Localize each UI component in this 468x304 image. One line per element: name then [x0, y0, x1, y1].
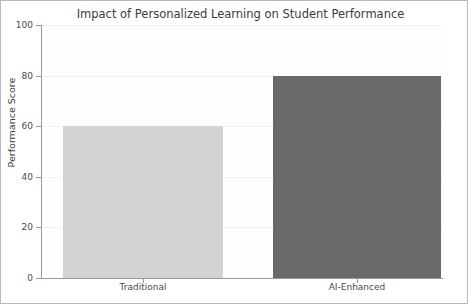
y-axis-spine: [41, 25, 42, 279]
chart-title: Impact of Personalized Learning on Stude…: [41, 5, 440, 23]
gridline-100: [41, 25, 442, 26]
xtick-label-traditional: Traditional: [83, 282, 203, 293]
bar-traditional: [63, 126, 223, 278]
ytick-label-0: 0: [3, 273, 33, 283]
y-axis-label: Performance Score: [6, 68, 17, 178]
chart-figure: Impact of Personalized Learning on Stude…: [0, 0, 468, 304]
ytick-mark-40: [36, 177, 41, 178]
ytick-mark-80: [36, 76, 41, 77]
x-axis-spine: [41, 278, 443, 279]
xtick-label-ai-enhanced: AI-Enhanced: [297, 282, 417, 293]
ytick-mark-20: [36, 227, 41, 228]
ytick-label-20: 20: [3, 222, 33, 232]
ytick-mark-0: [36, 278, 41, 279]
ytick-mark-100: [36, 25, 41, 26]
ytick-mark-60: [36, 126, 41, 127]
bar-ai-enhanced: [273, 76, 441, 278]
plot-area: [41, 25, 442, 278]
ytick-label-100: 100: [3, 20, 33, 30]
